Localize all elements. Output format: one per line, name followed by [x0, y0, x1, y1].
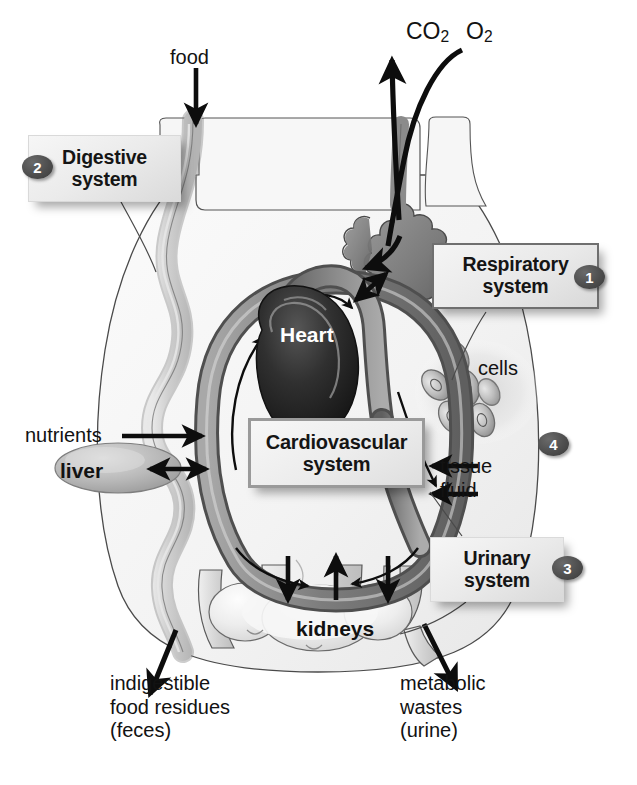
label-box-urinary-system[interactable]: Urinary system [430, 537, 564, 602]
badge-number-1[interactable]: 1 [574, 265, 605, 289]
label-box-cardiovascular-system[interactable]: Cardiovascular system [248, 418, 425, 488]
digestive-line1: Digestive [62, 146, 147, 168]
label-cells: cells [478, 357, 518, 381]
trunk-top-block [160, 117, 486, 210]
label-tissue-fluid: tissuefluid [440, 455, 492, 502]
label-food: food [170, 46, 209, 70]
label-metabolic-wastes: metabolicwastes(urine) [400, 672, 486, 743]
label-oxygen: O2 [466, 18, 493, 47]
label-indigestible-food-residues: indigestiblefood residues(feces) [110, 672, 230, 743]
cardio-line1: Cardiovascular [266, 431, 408, 453]
urinary-line1: Urinary [464, 547, 531, 569]
urinary-line2: system [464, 569, 530, 591]
label-kidneys: kidneys [296, 617, 374, 642]
label-heart: Heart [280, 323, 334, 348]
respiratory-line1: Respiratory [462, 253, 568, 275]
digestive-line2: system [71, 168, 137, 190]
label-carbon-dioxide: CO2 [406, 18, 449, 47]
badge-number-4[interactable]: 4 [538, 432, 569, 456]
badge-number-3[interactable]: 3 [552, 556, 583, 580]
diagram-canvas: Digestive system Respiratory system Card… [0, 0, 637, 785]
label-liver: liver [60, 459, 103, 484]
respiratory-line2: system [482, 275, 548, 297]
body-systems-illustration [0, 0, 637, 785]
cardio-line2: system [303, 453, 371, 475]
label-nutrients: nutrients [25, 424, 102, 448]
badge-number-2[interactable]: 2 [22, 155, 53, 179]
